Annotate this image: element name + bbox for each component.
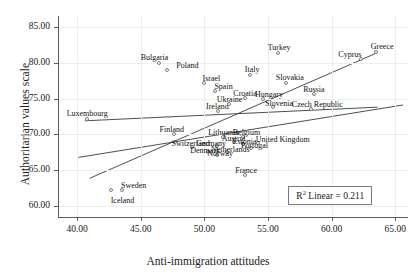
scatter-chart: Authoritarian values scale Anti-immigrat… xyxy=(0,0,416,277)
gridline-horizontal xyxy=(59,63,408,64)
data-point-label: Slovenia xyxy=(265,99,293,108)
data-point-label: Greece xyxy=(371,42,394,51)
data-point-label: Italy xyxy=(245,65,260,74)
x-tick-label: 65.00 xyxy=(372,224,416,234)
y-tick-mark xyxy=(54,134,58,135)
y-tick-mark xyxy=(54,63,58,64)
data-point-label: Poland xyxy=(176,61,198,70)
x-tick-mark xyxy=(268,217,269,221)
gridline-vertical xyxy=(204,16,205,217)
r2-suffix: Linear = 0.211 xyxy=(306,191,364,201)
x-tick-mark xyxy=(332,217,333,221)
data-point-label: Cyprus xyxy=(338,50,361,59)
y-tick-mark xyxy=(54,170,58,171)
y-tick-label: 65.00 xyxy=(8,164,50,174)
x-tick-mark xyxy=(204,217,205,221)
regression-line xyxy=(90,53,378,179)
gridline-horizontal xyxy=(59,170,408,171)
x-axis-title: Anti-immigration attitudes xyxy=(0,255,416,267)
data-point-label: Sweden xyxy=(121,181,146,190)
data-point-label: Iceland xyxy=(111,196,135,205)
regression-line xyxy=(85,107,378,121)
data-point-label: Hungary xyxy=(255,90,283,99)
y-tick-label: 75.00 xyxy=(8,93,50,103)
y-tick-mark xyxy=(54,27,58,28)
data-point-label: Russia xyxy=(303,85,324,94)
data-point-label: Bulgaria xyxy=(141,53,169,62)
y-tick-label: 80.00 xyxy=(8,57,50,67)
data-point-label: Slovakia xyxy=(276,73,304,82)
y-tick-mark xyxy=(54,99,58,100)
x-tick-mark xyxy=(395,217,396,221)
data-point-label: Luxembourg xyxy=(67,109,108,118)
gridline-horizontal xyxy=(59,27,408,28)
r-squared-annotation: R2 Linear = 0.211 xyxy=(288,186,372,205)
x-tick-label: 60.00 xyxy=(309,224,355,234)
x-tick-label: 40.00 xyxy=(54,224,100,234)
x-tick-label: 55.00 xyxy=(245,224,291,234)
data-point-label: Croatia xyxy=(233,89,257,98)
data-point-label: Turkey xyxy=(268,43,291,52)
y-tick-label: 70.00 xyxy=(8,128,50,138)
y-tick-mark xyxy=(54,206,58,207)
y-tick-label: 85.00 xyxy=(8,21,50,31)
x-tick-mark xyxy=(77,217,78,221)
data-point-label: Finland xyxy=(160,125,184,134)
data-point-label: France xyxy=(235,166,257,175)
gridline-horizontal xyxy=(59,206,408,207)
x-tick-mark xyxy=(141,217,142,221)
data-point-label: Spain xyxy=(214,82,232,91)
x-tick-label: 45.00 xyxy=(118,224,164,234)
data-point-label: Czech Republic xyxy=(292,100,343,109)
gridline-vertical xyxy=(395,16,396,217)
x-tick-label: 50.00 xyxy=(181,224,227,234)
data-point-label: Norway xyxy=(207,149,233,158)
y-tick-label: 60.00 xyxy=(8,200,50,210)
